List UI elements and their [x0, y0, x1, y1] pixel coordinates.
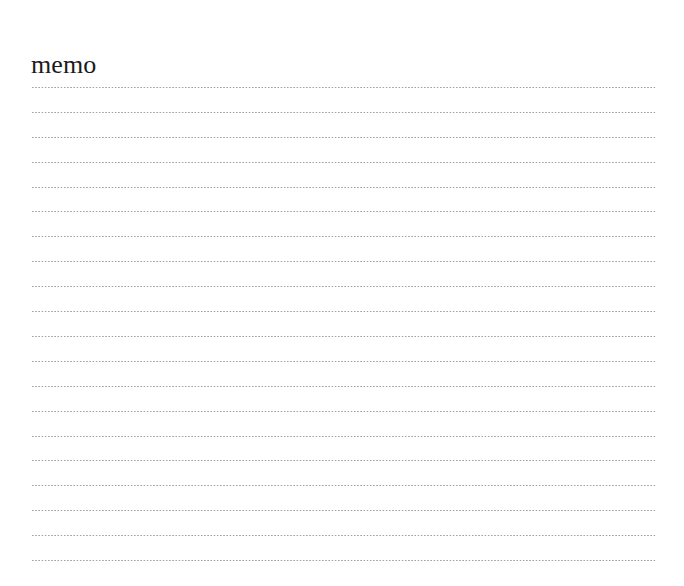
ruled-line-row[interactable]: [32, 63, 656, 88]
ruled-line-row[interactable]: [32, 213, 656, 238]
ruled-line: [32, 560, 656, 561]
ruled-line-row[interactable]: [32, 88, 656, 113]
ruled-line-row[interactable]: [32, 312, 656, 337]
ruled-line-row[interactable]: [32, 237, 656, 262]
ruled-line-row[interactable]: [32, 412, 656, 437]
ruled-line-row[interactable]: [32, 362, 656, 387]
ruled-line-row[interactable]: [32, 337, 656, 362]
ruled-line-row[interactable]: [32, 188, 656, 213]
ruled-line-row[interactable]: [32, 511, 656, 536]
ruled-line-row[interactable]: [32, 437, 656, 462]
ruled-line-row[interactable]: [32, 287, 656, 312]
ruled-line-row[interactable]: [32, 262, 656, 287]
ruled-line-row[interactable]: [32, 163, 656, 188]
memo-page: memo: [0, 0, 684, 586]
ruled-line-row[interactable]: [32, 113, 656, 138]
ruled-line-row[interactable]: [32, 138, 656, 163]
ruled-writing-area[interactable]: [0, 0, 684, 586]
ruled-line-row[interactable]: [32, 486, 656, 511]
ruled-line-row[interactable]: [32, 536, 656, 561]
ruled-line-row[interactable]: [32, 387, 656, 412]
ruled-line-row[interactable]: [32, 462, 656, 487]
